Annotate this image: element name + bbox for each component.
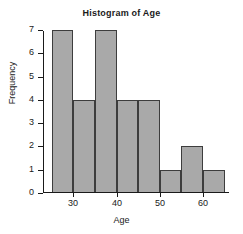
histogram-bar [95, 30, 117, 193]
y-axis-tick-label: 0 [12, 187, 34, 197]
x-axis-tick-label: 30 [61, 198, 85, 208]
y-axis-tick [38, 77, 43, 78]
histogram-bar [138, 100, 160, 193]
histogram-bar [117, 100, 139, 193]
x-axis-tick [73, 193, 74, 197]
y-axis-tick-label: 7 [12, 24, 34, 34]
x-axis-tick [160, 193, 161, 197]
y-axis-tick-label: 6 [12, 47, 34, 57]
y-axis-tick [38, 53, 43, 54]
y-axis-tick [38, 30, 43, 31]
histogram-bar [52, 30, 74, 193]
y-axis-tick-label: 3 [12, 117, 34, 127]
y-axis-tick-label: 1 [12, 164, 34, 174]
y-axis-tick-label: 5 [12, 71, 34, 81]
histogram-bar [181, 146, 203, 193]
y-axis-tick [38, 193, 43, 194]
plot-area [43, 30, 229, 193]
histogram-bar [203, 170, 225, 193]
y-axis-tick [38, 100, 43, 101]
y-axis-tick [38, 170, 43, 171]
histogram-bar [73, 100, 95, 193]
x-axis-tick [117, 193, 118, 197]
y-axis-tick-label: 4 [12, 94, 34, 104]
x-axis-label: Age [0, 215, 243, 225]
x-axis-tick-label: 60 [191, 198, 215, 208]
y-axis-tick [38, 146, 43, 147]
chart-title: Histogram of Age [0, 8, 243, 18]
y-axis-tick-label: 2 [12, 140, 34, 150]
y-axis-line [43, 31, 44, 192]
x-axis-tick-label: 40 [105, 198, 129, 208]
histogram-figure: Histogram of Age Frequency Age 012345673… [0, 0, 243, 234]
x-axis-line [43, 192, 229, 193]
x-axis-tick [203, 193, 204, 197]
y-axis-tick [38, 123, 43, 124]
histogram-bar [160, 170, 182, 193]
x-axis-tick-label: 50 [148, 198, 172, 208]
